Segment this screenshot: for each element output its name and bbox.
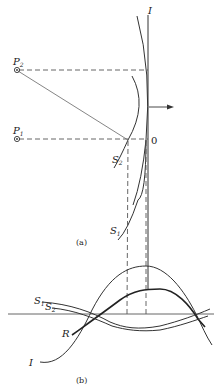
ray-P2-S2 [18, 71, 128, 140]
label-R: R [61, 328, 70, 339]
point-P1-marker [14, 136, 19, 141]
label-P2: P2 [12, 56, 24, 68]
label-I-top: I [147, 5, 153, 16]
figure-a: I P2 P1 0 S2 S1 (a) [12, 5, 174, 290]
label-S1: S1 [110, 225, 121, 237]
label-P1: P1 [12, 125, 24, 137]
wave-diagram: I P2 P1 0 S2 S1 (a) S1 S2 R I (b) [0, 0, 224, 390]
label-I-b: I [28, 357, 34, 368]
arc-S1 [118, 140, 146, 240]
label-S2: S2 [112, 154, 123, 166]
figure-b: S1 S2 R I (b) [8, 266, 214, 385]
caption-b: (b) [76, 376, 87, 385]
point-P2-marker [14, 67, 19, 72]
wavefront-arc-upper [133, 16, 148, 205]
curve-S1 [42, 302, 210, 328]
label-S1-b: S1 [34, 295, 45, 307]
arrow-right-icon [149, 105, 174, 110]
caption-a: (a) [76, 238, 87, 247]
label-origin: 0 [151, 135, 157, 146]
